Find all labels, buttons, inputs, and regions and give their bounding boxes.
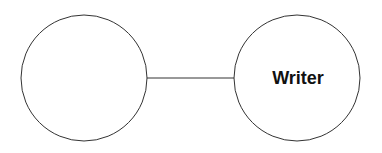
node-writer-label: Writer [272,68,324,88]
diagram-canvas: Writer [0,0,382,153]
node-left [21,15,147,141]
